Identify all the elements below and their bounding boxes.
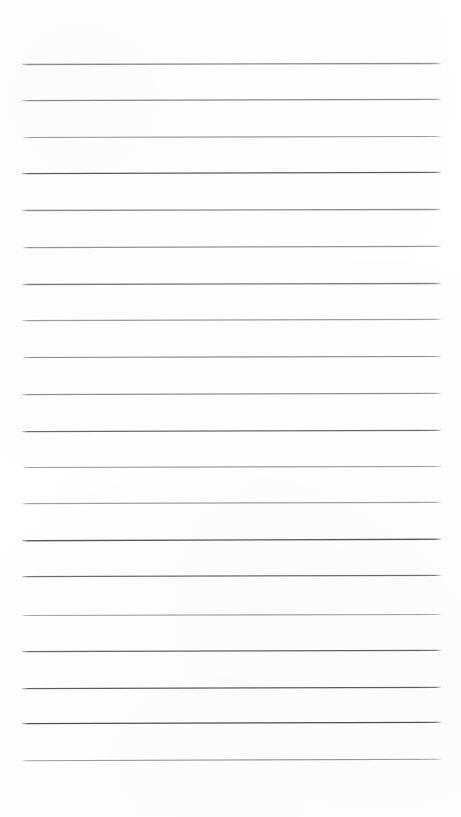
ruled-line[interactable] [22,685,441,691]
ruled-line[interactable] [23,354,441,360]
ruled-line[interactable] [22,500,441,506]
ruled-line[interactable] [22,757,441,763]
lined-paper-page [0,0,461,817]
ruled-line[interactable] [23,464,441,470]
ruled-line[interactable] [22,317,441,323]
ruled-line[interactable] [22,391,441,397]
ruled-line[interactable] [22,428,441,434]
ruled-line[interactable] [22,61,441,67]
ruled-line[interactable] [22,170,441,176]
ruled-line[interactable] [22,97,441,103]
ruled-line-area[interactable] [0,0,461,817]
ruled-line[interactable] [22,573,441,579]
ruled-line[interactable] [22,281,441,287]
ruled-line[interactable] [22,648,441,654]
ruled-line[interactable] [23,244,441,250]
ruled-line[interactable] [22,537,441,543]
ruled-line[interactable] [22,612,441,618]
ruled-line[interactable] [22,207,441,213]
ruled-line[interactable] [23,134,441,140]
ruled-line[interactable] [22,720,441,726]
